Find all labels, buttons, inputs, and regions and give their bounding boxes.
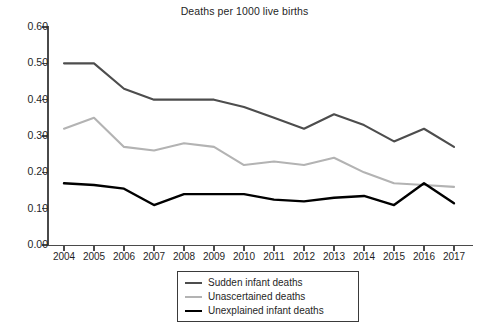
x-tick-mark (453, 246, 455, 251)
series-line (64, 118, 454, 187)
x-tick-mark (213, 246, 215, 251)
legend-item-label: Unascertained deaths (208, 292, 305, 302)
x-tick-mark (63, 246, 65, 251)
x-tick-mark (333, 246, 335, 251)
legend-swatch (185, 296, 202, 298)
legend-item-label: Sudden infant deaths (208, 278, 303, 288)
x-tick-label: 2017 (434, 252, 474, 262)
y-tick-label: 0.20 (8, 166, 48, 177)
series-line (64, 183, 454, 205)
y-tick-label: 0.40 (8, 94, 48, 105)
legend-item: Unexplained infant deaths (185, 304, 358, 318)
y-tick-label: 0.10 (8, 203, 48, 214)
series-lines (48, 27, 472, 245)
chart-title: Deaths per 1000 live births (0, 5, 489, 17)
x-tick-mark (303, 246, 305, 251)
x-tick-mark (423, 246, 425, 251)
legend-item-label: Unexplained infant deaths (208, 306, 324, 316)
legend-item: Unascertained deaths (185, 290, 358, 304)
x-tick-mark (273, 246, 275, 251)
x-tick-mark (183, 246, 185, 251)
legend-item: Sudden infant deaths (185, 276, 358, 290)
y-tick-label: 0.30 (8, 130, 48, 141)
x-tick-mark (123, 246, 125, 251)
x-tick-mark (243, 246, 245, 251)
legend-swatch (185, 282, 202, 284)
legend-swatch (185, 310, 202, 312)
y-tick-label: 0.50 (8, 57, 48, 68)
y-tick-label: 0.60 (8, 21, 48, 32)
x-tick-mark (93, 246, 95, 251)
x-tick-mark (153, 246, 155, 251)
x-tick-mark (363, 246, 365, 251)
series-line (64, 63, 454, 147)
chart-container: Deaths per 1000 live births 0.600.500.40… (0, 0, 489, 329)
plot-area (48, 27, 472, 245)
x-tick-mark (393, 246, 395, 251)
y-tick-label: 0.00 (8, 239, 48, 250)
chart-legend: Sudden infant deathsUnascertained deaths… (177, 271, 359, 322)
